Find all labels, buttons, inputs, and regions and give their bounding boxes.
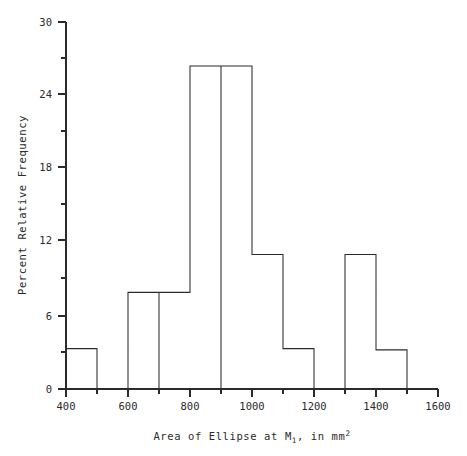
x-tick-label-600: 600 xyxy=(119,400,138,412)
y-tick-label-0: 0 xyxy=(46,383,52,395)
y-axis-title: Percent Relative Frequency xyxy=(16,115,28,295)
x-tick-label-1200: 1200 xyxy=(301,400,326,412)
x-tick-label-1600: 1600 xyxy=(425,400,450,412)
y-tick-label-6: 6 xyxy=(46,310,52,322)
x-axis-title-mid: , in mm xyxy=(297,430,345,442)
y-tick-label-12: 12 xyxy=(39,234,52,246)
x-axis-title-superscript: 2 xyxy=(345,429,350,438)
histogram-figure: 30 24 18 12 6 0 Percent Relative Frequen… xyxy=(0,0,467,456)
x-tick-label-1400: 1400 xyxy=(363,400,388,412)
y-tick-label-18: 18 xyxy=(39,161,52,173)
x-tick-label-400: 400 xyxy=(57,400,76,412)
y-tick-label-24: 24 xyxy=(39,88,52,100)
x-tick-label-1000: 1000 xyxy=(239,400,264,412)
figure-background xyxy=(0,0,467,456)
x-axis-title-lead: Area of Ellipse at M xyxy=(153,430,291,442)
x-tick-label-800: 800 xyxy=(181,400,200,412)
y-tick-label-30: 30 xyxy=(39,16,52,28)
